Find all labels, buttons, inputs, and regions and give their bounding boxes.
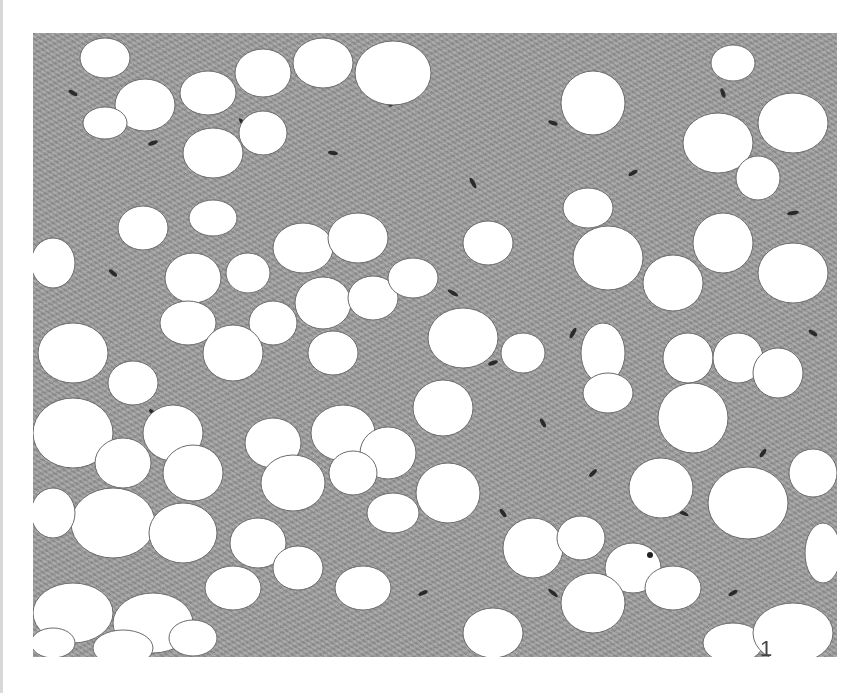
micrograph-illustration (33, 33, 837, 657)
histology-micrograph (33, 33, 837, 657)
panel-label: 1 (760, 636, 772, 662)
nucleus-dot (647, 552, 653, 558)
left-border-line (0, 0, 3, 693)
adipocytes (33, 38, 837, 657)
